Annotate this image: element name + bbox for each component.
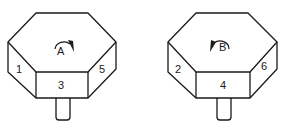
face-label-right-b: 6 [261, 60, 267, 72]
hex-prism-diagram: A 1 3 5 B 2 4 6 [0, 0, 287, 139]
stem-b [217, 96, 231, 120]
face-label-front-a: 3 [58, 79, 64, 91]
stem-a [56, 96, 70, 120]
rotation-label-a: A [57, 45, 65, 57]
face-label-left-b: 2 [175, 63, 181, 75]
face-label-left-a: 1 [16, 63, 22, 75]
prism-b: B 2 4 6 [168, 13, 277, 120]
face-label-front-b: 4 [220, 79, 226, 91]
face-label-right-a: 5 [99, 63, 105, 75]
prism-a: A 1 3 5 [8, 13, 116, 120]
rotation-label-b: B [219, 41, 226, 53]
